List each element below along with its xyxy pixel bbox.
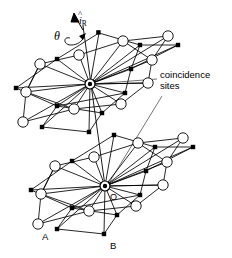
lower-coincidence-site (100, 181, 110, 191)
theta-angle-label: θ (54, 30, 60, 43)
point-a-label: A (42, 232, 48, 243)
axis-vector-subscript: R (82, 19, 87, 28)
axis-vector-symbol: ^i (79, 15, 82, 26)
upper-lattice-2-bonds (16, 33, 178, 132)
hat-accent-icon: ^ (78, 9, 82, 19)
coincidence-sites-label: coincidencesites (160, 70, 210, 91)
lattice-drawing (0, 0, 232, 258)
lower-lattice-2-bonds (31, 135, 193, 234)
upper-coincidence-site (85, 79, 95, 89)
origin-label: O (110, 192, 117, 202)
upper-plane-group (16, 33, 178, 132)
coincidence-sites-label-line1: coincidence (160, 69, 210, 80)
point-b-label: B (110, 241, 116, 252)
coincidence-sites-label-line2: sites (160, 80, 180, 91)
coincidence-site-lattice-figure: ^iR θ coincidencesites O A B (0, 0, 232, 258)
lower-plane-group (31, 135, 193, 234)
axis-vector-label: ^iR (69, 4, 87, 40)
